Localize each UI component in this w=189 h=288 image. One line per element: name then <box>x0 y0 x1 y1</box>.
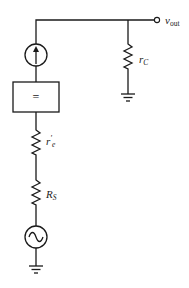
rs-label: RS <box>45 188 57 202</box>
output-terminal <box>154 17 159 22</box>
box-symbol: = <box>33 90 40 104</box>
resistor-re-prime <box>32 112 40 178</box>
top-wire <box>36 20 154 44</box>
resistor-rc <box>124 20 132 94</box>
resistor-rs <box>32 178 40 226</box>
circuit-diagram: vout rC = r'e <box>0 0 189 288</box>
re-prime-label: r'e <box>46 134 56 149</box>
ground-left-icon <box>29 266 43 273</box>
ground-right-icon <box>121 94 135 101</box>
vout-label: vout <box>165 14 180 28</box>
rc-label: rC <box>139 53 149 67</box>
current-source-icon <box>25 44 47 66</box>
ac-source-icon <box>25 226 47 248</box>
